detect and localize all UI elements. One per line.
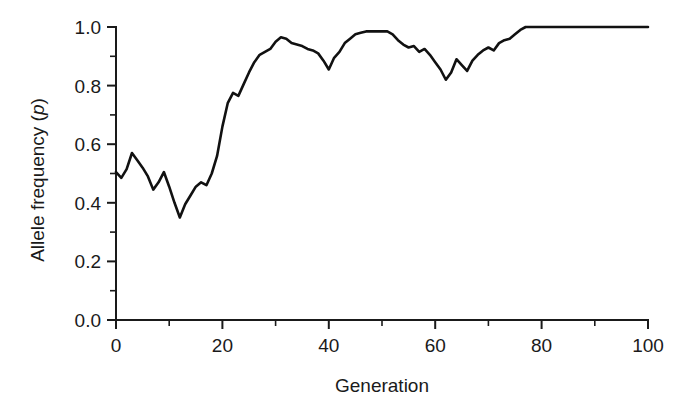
y-axis-title: Allele frequency (p)	[27, 98, 48, 262]
x-tick-label: 0	[111, 335, 122, 356]
y-tick-label: 0.4	[75, 193, 102, 214]
y-axis-title-main: Allele frequency (	[27, 114, 48, 261]
x-axis-tick-labels: 020406080100	[111, 335, 664, 356]
y-tick-label: 0.2	[75, 251, 101, 272]
chart-canvas: 0.00.20.40.60.81.0 020406080100 Generati…	[0, 0, 690, 403]
y-tick-label: 0.8	[75, 76, 101, 97]
x-tick-label: 80	[531, 335, 552, 356]
y-tick-label: 0.6	[75, 134, 101, 155]
y-axis-tick-labels: 0.00.20.40.60.81.0	[75, 17, 102, 331]
y-axis-title-symbol: p	[27, 104, 48, 116]
x-axis-title: Generation	[335, 375, 429, 396]
x-tick-label: 40	[318, 335, 339, 356]
y-axis-title-close: )	[27, 98, 48, 104]
allele-frequency-line	[116, 27, 648, 217]
x-tick-label: 100	[632, 335, 664, 356]
x-tick-label: 60	[425, 335, 446, 356]
svg-text:Allele frequency (p): Allele frequency (p)	[27, 98, 48, 262]
x-tick-label: 20	[212, 335, 233, 356]
allele-frequency-figure: 0.00.20.40.60.81.0 020406080100 Generati…	[0, 0, 690, 403]
y-tick-label: 0.0	[75, 310, 101, 331]
y-tick-label: 1.0	[75, 17, 101, 38]
